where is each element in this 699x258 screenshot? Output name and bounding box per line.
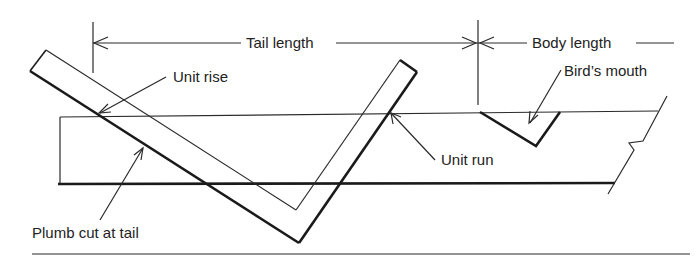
unit-run-label: Unit run (441, 151, 494, 168)
square-blade-end (30, 50, 46, 71)
plumb-cut-label: Plumb cut at tail (32, 224, 139, 241)
birds-mouth-callout: Bird’s mouth (529, 62, 647, 123)
square-blade-outer-edge (30, 71, 299, 243)
unit-run-leader (391, 113, 435, 160)
body-length-label: Body length (532, 34, 611, 51)
arrowhead-icon (134, 148, 143, 160)
unit-run-callout: Unit run (391, 113, 494, 168)
birds-mouth-notch (480, 112, 560, 146)
rafter-board (58, 96, 667, 194)
unit-rise-label: Unit rise (173, 68, 228, 85)
birds-mouth-label: Bird’s mouth (564, 62, 647, 79)
square-tongue-end (400, 60, 417, 72)
unit-rise-leader (100, 77, 166, 113)
square-tongue-inner-edge (296, 60, 400, 210)
rafter-bottom-edge (58, 183, 615, 184)
unit-rise-callout: Unit rise (99, 68, 228, 113)
plumb-cut-callout: Plumb cut at tail (32, 148, 143, 241)
tail-length-dimension: Tail length (93, 22, 478, 73)
square-tongue-outer-edge (299, 72, 417, 243)
square-blade-inner-edge (46, 50, 296, 210)
rafter-diagram: Tail length Body length Unit rise Bird’s… (0, 0, 699, 258)
tail-length-label: Tail length (246, 34, 314, 51)
